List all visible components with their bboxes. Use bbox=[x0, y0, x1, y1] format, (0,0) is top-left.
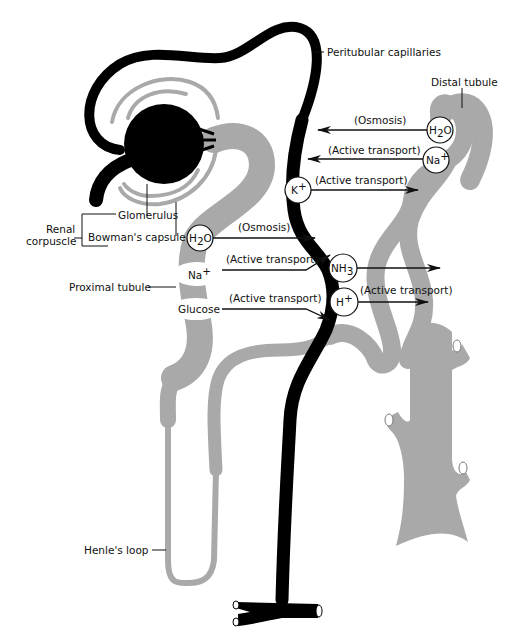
label-proximal-osmosis: (Osmosis) bbox=[238, 221, 290, 233]
venule bbox=[236, 602, 318, 626]
label-glomerulus: Glomerulus bbox=[118, 209, 178, 221]
label-renal-corpuscle-1: Renal bbox=[46, 223, 75, 235]
label-h-active: (Active transport) bbox=[360, 284, 453, 296]
label-distal-tubule: Distal tubule bbox=[431, 76, 498, 88]
henles-loop-descending bbox=[168, 378, 174, 420]
label-bowmans-capsule: Bowman's capsule bbox=[88, 231, 186, 243]
venule-opening-3 bbox=[316, 605, 322, 617]
svg-text:Glucose: Glucose bbox=[178, 303, 220, 315]
arrow-proximal-glucose bbox=[222, 309, 330, 320]
glomerulus bbox=[124, 104, 204, 184]
bubble-nh3: NH3 bbox=[329, 254, 357, 282]
label-renal-corpuscle-2: corpuscle bbox=[26, 235, 76, 247]
nephron-diagram: H2O Na+ K+ H2O Na+ Glucose NH3 H+ bbox=[0, 0, 515, 644]
label-k-active: (Active transport) bbox=[315, 174, 408, 186]
duct-opening-1 bbox=[453, 340, 461, 352]
bubble-k: K+ bbox=[285, 177, 311, 203]
label-distal-osmosis: (Osmosis) bbox=[354, 114, 406, 126]
duct-opening-3 bbox=[459, 462, 467, 474]
bubble-na-distal: Na+ bbox=[423, 147, 449, 173]
label-glucose-active: (Active transport) bbox=[229, 292, 322, 304]
bubble-h2o-proximal: H2O bbox=[187, 225, 213, 251]
venule-opening-2 bbox=[233, 618, 239, 626]
label-proximal-tubule: Proximal tubule bbox=[69, 281, 151, 293]
label-peritubular-capillaries: Peritubular capillaries bbox=[327, 46, 441, 58]
bubble-h: H+ bbox=[330, 288, 358, 316]
label-distal-na-active: (Active transport) bbox=[328, 144, 421, 156]
venule-opening-1 bbox=[233, 601, 239, 609]
label-proximal-na-active: (Active transport) bbox=[226, 253, 319, 265]
bubble-h2o-distal: H2O bbox=[427, 117, 453, 143]
oval-glucose: Glucose bbox=[170, 298, 222, 320]
label-henles-loop: Henle's loop bbox=[84, 544, 149, 556]
duct-opening-2 bbox=[385, 414, 393, 426]
oval-na-proximal: Na+ bbox=[173, 262, 221, 286]
